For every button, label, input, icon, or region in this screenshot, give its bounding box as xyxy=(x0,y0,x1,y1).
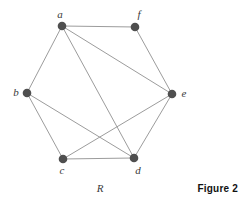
vertex-label-c: c xyxy=(60,164,65,176)
vertex-label-f: f xyxy=(137,8,142,20)
graph-name-label: R xyxy=(88,182,112,194)
edge-a-e xyxy=(62,26,172,94)
edge-c-e xyxy=(63,94,172,159)
edge-a-b xyxy=(27,26,62,93)
vertex-label-d: d xyxy=(135,164,141,176)
figure-2-graph-diagram: afbecd R Figure 2 xyxy=(0,0,239,213)
figure-caption: Figure 2 xyxy=(198,183,239,194)
vertex-c xyxy=(59,155,68,164)
vertex-label-e: e xyxy=(182,87,187,99)
vertex-label-b: b xyxy=(13,86,19,98)
edge-c-d xyxy=(63,158,134,159)
vertex-label-a: a xyxy=(57,8,63,20)
vertex-d xyxy=(130,154,139,163)
vertex-a xyxy=(58,22,67,31)
edge-a-f xyxy=(62,26,135,27)
vertex-b xyxy=(23,89,32,98)
edge-b-c xyxy=(27,93,63,159)
graph-canvas: afbecd xyxy=(0,0,239,213)
edge-d-e xyxy=(134,94,172,158)
vertex-f xyxy=(131,23,140,32)
vertex-e xyxy=(168,90,177,99)
edge-e-f xyxy=(135,27,172,94)
